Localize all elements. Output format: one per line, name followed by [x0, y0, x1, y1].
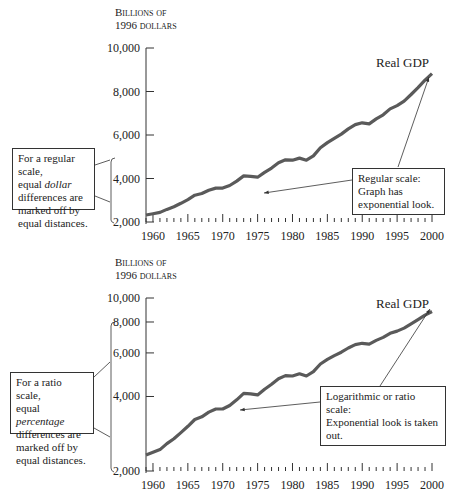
bottom-x-tick-label: 1980	[280, 478, 304, 492]
top-y-tick-label: 6,000	[113, 128, 140, 142]
bottom-x-tick-label: 1970	[211, 478, 235, 492]
bottom-x-tick-label: 2000	[420, 478, 444, 492]
top-scale-note: Regular scale: Graph has exponential loo…	[352, 168, 445, 215]
top-x-tick-label: 1970	[211, 229, 235, 243]
top-x-tick-label: 1980	[280, 229, 304, 243]
top-scale-note-title: Regular scale:	[358, 172, 439, 185]
emphasis-text: percentage	[16, 415, 64, 427]
top-side-note-line2: equal dollar	[18, 178, 89, 191]
bottom-note-arrow	[240, 402, 320, 410]
bottom-y-axis-title: Billions of 1996 dollars	[115, 256, 177, 282]
text: equal	[16, 402, 40, 414]
bottom-side-note-line4: marked off by	[16, 441, 88, 454]
top-y-tick-label: 10,000	[107, 41, 140, 55]
top-side-note-line5: equal distances.	[18, 217, 89, 230]
bottom-side-note-line5: equal distances.	[16, 454, 88, 467]
top-x-tick-label: 2000	[420, 229, 444, 243]
top-x-tick-label: 1995	[385, 229, 409, 243]
top-x-tick-label: 1975	[246, 229, 270, 243]
bottom-series-label: Real GDP	[376, 296, 429, 312]
top-brace	[111, 158, 115, 223]
bottom-y-tick-label: 6,000	[113, 346, 140, 360]
top-note-arrow	[264, 180, 352, 193]
top-side-arrow-2	[95, 196, 110, 202]
bottom-y-tick-label: 8,000	[113, 315, 140, 329]
bottom-scale-note: Logarithmic or ratio scale: Exponential …	[320, 386, 446, 446]
bottom-side-arrow-2	[94, 428, 110, 437]
bottom-side-arrow-1	[94, 362, 110, 377]
bottom-scale-note-line1: Logarithmic or ratio scale:	[326, 390, 440, 416]
top-y-axis-title-line1: Billions of	[115, 6, 177, 19]
top-side-arrow-1	[95, 160, 110, 165]
top-scale-note-line2: exponential look.	[358, 198, 439, 211]
top-note-arrow-head	[264, 191, 269, 194]
bottom-side-note-line2: equal percentage	[16, 402, 88, 428]
top-y-axis-title-line2: 1996 dollars	[115, 19, 177, 32]
bottom-y-tick-label: 4,000	[113, 389, 140, 403]
bottom-side-note-line3: differences are	[16, 428, 88, 441]
bottom-x-tick-label: 1985	[315, 478, 339, 492]
bottom-y-axis-title-line2: 1996 dollars	[115, 269, 177, 282]
bottom-x-tick-label: 1975	[246, 478, 270, 492]
bottom-x-tick-label: 1960	[141, 478, 165, 492]
top-side-note-line1: For a regular scale,	[18, 152, 89, 178]
emphasis-text: dollar	[45, 178, 72, 190]
top-y-tick-label: 8,000	[113, 85, 140, 99]
top-y-axis-title: Billions of 1996 dollars	[115, 6, 177, 32]
bottom-y-axis-title-line1: Billions of	[115, 256, 177, 269]
bottom-label-arrow	[380, 309, 430, 386]
bottom-side-note-line1: For a ratio scale,	[16, 376, 88, 402]
top-scale-note-line1: Graph has	[358, 185, 439, 198]
top-y-tick-label: 4,000	[113, 172, 140, 186]
top-x-tick-label: 1965	[176, 229, 200, 243]
bottom-scale-note-line2: Exponential look is taken out.	[326, 416, 440, 442]
top-x-tick-label: 1990	[350, 229, 374, 243]
bottom-y-tick-label: 10,000	[107, 291, 140, 305]
top-side-note: For a regular scale, equal dollar differ…	[12, 148, 95, 210]
top-side-note-line3: differences are	[18, 191, 89, 204]
bottom-y-tick-label: 2,000	[113, 464, 140, 478]
top-series-label: Real GDP	[376, 55, 429, 71]
top-y-tick-label: 2,000	[113, 215, 140, 229]
bottom-x-tick-label: 1990	[350, 478, 374, 492]
top-side-note-line4: marked off by	[18, 204, 89, 217]
bottom-side-note: For a ratio scale, equal percentage diff…	[10, 372, 94, 434]
top-x-tick-label: 1985	[315, 229, 339, 243]
text: equal	[18, 178, 45, 190]
bottom-x-tick-label: 1965	[176, 478, 200, 492]
top-x-tick-label: 1960	[141, 229, 165, 243]
bottom-x-tick-label: 1995	[385, 478, 409, 492]
